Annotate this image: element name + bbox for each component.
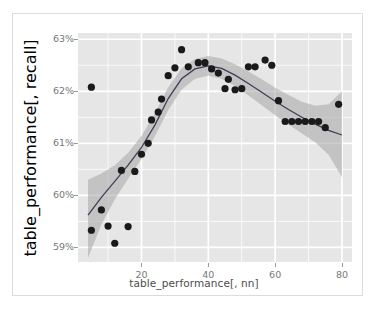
data-point xyxy=(98,206,105,213)
x-tick-mark xyxy=(342,263,343,267)
x-tick-mark xyxy=(141,263,142,267)
data-point xyxy=(104,222,111,229)
data-point xyxy=(88,227,95,234)
data-point xyxy=(262,56,269,63)
y-tick-label: 63% xyxy=(40,33,74,44)
data-point xyxy=(315,118,322,125)
y-axis-title: table_performance[, recall] xyxy=(21,39,40,256)
data-point xyxy=(245,63,252,70)
y-tick-label: 61% xyxy=(40,137,74,148)
data-point xyxy=(88,84,95,91)
data-point xyxy=(111,240,118,247)
data-point xyxy=(138,151,145,158)
data-point xyxy=(322,124,329,131)
y-tick-mark xyxy=(74,195,78,196)
data-point xyxy=(295,118,302,125)
data-point xyxy=(131,168,138,175)
data-point xyxy=(225,76,232,83)
y-tick-mark xyxy=(74,247,78,248)
data-point xyxy=(201,59,208,66)
data-point xyxy=(208,65,215,72)
scatter-plot-figure: 59%60%61%62%63% 20406080 table_performan… xyxy=(0,0,388,322)
data-point xyxy=(185,63,192,70)
y-tick-label: 62% xyxy=(40,85,74,96)
data-point xyxy=(178,46,185,53)
y-tick-label: 59% xyxy=(40,241,74,252)
data-point xyxy=(221,85,228,92)
data-point xyxy=(145,140,152,147)
data-point xyxy=(215,69,222,76)
data-point xyxy=(125,223,132,230)
data-point xyxy=(148,116,155,123)
y-tick-mark xyxy=(74,39,78,40)
data-point xyxy=(275,97,282,104)
data-point xyxy=(335,101,342,108)
y-tick-mark xyxy=(74,91,78,92)
data-point xyxy=(238,85,245,92)
data-point xyxy=(165,72,172,79)
data-point xyxy=(231,86,238,93)
data-point xyxy=(251,63,258,70)
x-tick-mark xyxy=(275,263,276,267)
y-tick-label: 60% xyxy=(40,189,74,200)
data-point xyxy=(288,118,295,125)
data-point xyxy=(308,118,315,125)
x-tick-mark xyxy=(208,263,209,267)
data-point xyxy=(158,95,165,102)
data-point xyxy=(195,59,202,66)
data-point xyxy=(155,109,162,116)
data-point xyxy=(118,167,125,174)
y-tick-mark xyxy=(74,143,78,144)
data-point xyxy=(282,118,289,125)
x-axis-title: table_performance[, nn] xyxy=(0,277,388,289)
data-point xyxy=(171,64,178,71)
data-point xyxy=(302,118,309,125)
data-point xyxy=(268,62,275,69)
